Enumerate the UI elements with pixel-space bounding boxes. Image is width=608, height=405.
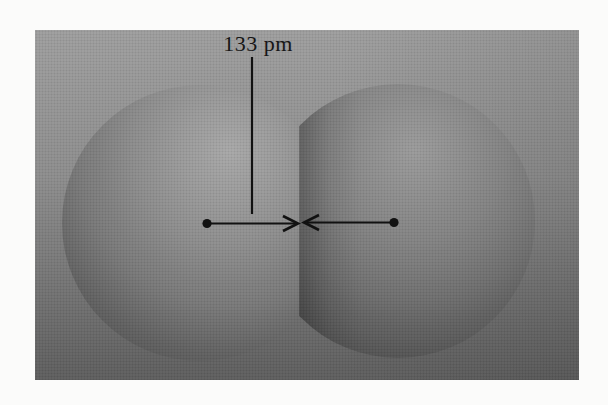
right-atom-sphere [261,84,535,358]
distance-label: 133 pm [221,31,295,57]
scanned-page: 133 pm [0,0,608,405]
left-atom-sphere [62,85,338,361]
